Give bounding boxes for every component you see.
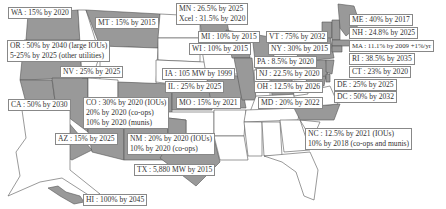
label-vt: VT : 75% by 2032 xyxy=(266,31,328,43)
label-dc: DC : 50% by 2032 xyxy=(334,91,397,103)
label-nm: NM : 20% by 2020 (IOUs)10% by 2020 (co-o… xyxy=(127,133,215,155)
state-nj xyxy=(326,60,334,74)
label-az: AZ : 15% by 2025 xyxy=(55,133,118,145)
label-nc: NC : 12.5% by 2021 (IOUs)10% by 2018 (co… xyxy=(305,128,412,150)
label-mo: MO : 15% by 2021 xyxy=(176,97,241,109)
label-ia: IA : 105 MW by 1999 xyxy=(162,68,235,80)
state-fl xyxy=(264,152,318,200)
label-ma: MA : 11.1% by 2009 +1%/yr xyxy=(349,40,434,52)
label-wi: WI : 10% by 2015 xyxy=(189,43,251,55)
label-mi: MI : 10% by 2015 xyxy=(198,31,260,43)
label-ri: RI : 38.5% by 2035 xyxy=(349,53,415,65)
label-nj: NJ : 22.5% by 2020 xyxy=(256,68,323,80)
label-or: OR : 50% by 2040 (large IOUs)5-25% by 20… xyxy=(7,40,110,62)
label-mt: MT : 15% by 2015 xyxy=(95,17,159,29)
label-wa: WA : 15% by 2020 xyxy=(8,7,72,19)
label-ca: CA : 50% by 2030 xyxy=(8,99,71,111)
label-me: ME : 40% by 2017 xyxy=(349,14,413,26)
state-la xyxy=(214,136,248,160)
label-co: CO : 30% by 2020 (IOUs)20% by 2020 (co-o… xyxy=(83,97,169,129)
label-md: MD : 20% by 2022 xyxy=(258,97,323,109)
label-nv: NV : 25% by 2025 xyxy=(60,66,123,78)
label-oh: OH : 12.5% by 2026 xyxy=(254,81,323,93)
state-ma xyxy=(332,40,350,46)
label-ny: NY : 30% by 2015 xyxy=(268,43,331,55)
state-nh xyxy=(332,20,340,40)
state-ar xyxy=(214,110,246,136)
state-de xyxy=(326,74,330,82)
label-il: IL : 25% by 2025 xyxy=(165,81,224,93)
label-hi: HI : 100% by 2045 xyxy=(83,194,147,206)
label-tx: TX : 5,880 MW by 2015 xyxy=(134,164,215,176)
label-nh: NH : 24.8% by 2025 xyxy=(349,27,418,39)
label-de: DE : 25% by 2025 xyxy=(334,79,397,91)
state-ct xyxy=(332,46,342,52)
label-pa: PA : 8.5% by 2020 xyxy=(254,56,317,68)
label-ct: CT : 23% by 2020 xyxy=(349,66,411,78)
label-mn: MN : 26.5% by 2025Xcel : 31.5% by 2020 xyxy=(176,3,248,25)
state-al xyxy=(262,122,282,156)
